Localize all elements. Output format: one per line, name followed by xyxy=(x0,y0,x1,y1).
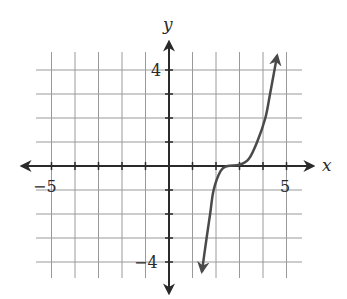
x-axis-label: x xyxy=(322,155,332,175)
y-tick-label-4: 4 xyxy=(151,61,161,80)
y-tick-label-neg4: −4 xyxy=(134,253,158,272)
axes xyxy=(22,42,313,293)
function-graph: x y −5 5 4 −4 xyxy=(0,0,347,299)
x-tick-label-neg5: −5 xyxy=(33,177,57,196)
x-tick-label-5: 5 xyxy=(280,177,290,196)
y-axis-label: y xyxy=(162,14,173,34)
